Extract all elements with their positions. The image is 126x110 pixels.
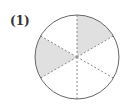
- fraction-circle-figure: [0, 0, 126, 110]
